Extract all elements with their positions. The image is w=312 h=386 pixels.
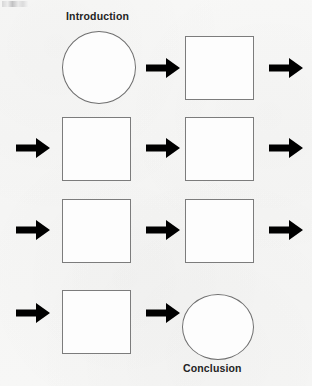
conclusion-label: Conclusion — [183, 363, 242, 374]
introduction-label: Introduction — [66, 11, 129, 22]
scan-artifact — [2, 1, 28, 7]
row-2-shape-right-square[interactable] — [185, 117, 254, 181]
arrow-right-icon — [146, 58, 180, 78]
row-4-shape-right-circle[interactable] — [182, 294, 254, 360]
row-3-shape-right-square[interactable] — [185, 199, 254, 263]
arrow-right-icon — [269, 138, 303, 158]
arrow-right-icon — [16, 303, 50, 323]
row-2-shape-left-square[interactable] — [62, 117, 131, 181]
arrow-right-icon — [16, 220, 50, 240]
arrow-right-icon — [269, 58, 303, 78]
arrow-right-icon — [146, 303, 180, 323]
row-1-shape-right-square[interactable] — [185, 36, 254, 100]
arrow-right-icon — [16, 138, 50, 158]
row-4-shape-left-square[interactable] — [62, 290, 131, 354]
worksheet-page: Introduction Conclusion — [0, 0, 312, 386]
arrow-right-icon — [269, 220, 303, 240]
row-1-shape-left-circle[interactable] — [62, 31, 136, 104]
arrow-right-icon — [146, 138, 180, 158]
arrow-right-icon — [146, 220, 180, 240]
row-3-shape-left-square[interactable] — [62, 199, 131, 263]
